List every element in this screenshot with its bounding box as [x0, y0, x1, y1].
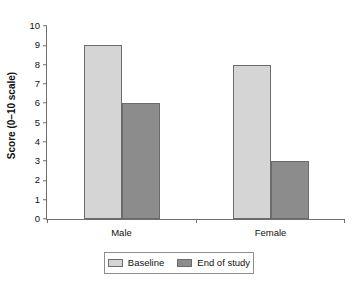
y-axis-tick: 10	[29, 21, 47, 31]
y-axis-tick: 8	[35, 60, 47, 70]
x-axis-category-label: Male	[111, 227, 132, 238]
y-axis-tick: 0	[35, 214, 47, 224]
x-axis-tick-mark	[344, 219, 345, 223]
plot-area: 109876543210 MaleFemale	[47, 26, 345, 219]
legend-swatch-baseline	[108, 259, 123, 267]
x-axis-category-label: Female	[255, 227, 287, 238]
y-axis-tick: 4	[35, 137, 47, 147]
y-axis-tick-label: 6	[35, 98, 43, 108]
y-axis-tick-label: 8	[35, 60, 43, 70]
y-axis-tick-label: 5	[35, 118, 43, 128]
y-axis-tick-mark	[43, 141, 47, 142]
y-axis-tick: 5	[35, 118, 47, 128]
y-axis-tick-label: 1	[35, 195, 43, 205]
y-axis-tick: 9	[35, 41, 47, 51]
y-axis-tick-mark	[43, 199, 47, 200]
y-axis-label: Score (0–10 scale)	[0, 0, 24, 230]
y-axis-tick-mark	[43, 64, 47, 65]
legend-swatch-end-of-study	[177, 259, 192, 267]
y-axis-tick-label: 3	[35, 156, 43, 166]
legend-label-baseline: Baseline	[128, 258, 164, 268]
bar-chart: Score (0–10 scale) 109876543210 MaleFema…	[0, 0, 361, 286]
y-axis-label-text: Score (0–10 scale)	[7, 71, 18, 158]
bar	[122, 103, 160, 219]
x-axis-tick-mark	[196, 219, 197, 223]
legend-label-end-of-study: End of study	[197, 258, 250, 268]
y-axis-tick: 1	[35, 195, 47, 205]
y-axis-tick-label: 4	[35, 137, 43, 147]
y-axis-tick-mark	[43, 45, 47, 46]
legend-item-end-of-study: End of study	[177, 258, 250, 268]
y-axis-tick-mark	[43, 83, 47, 84]
y-axis-tick-label: 9	[35, 41, 43, 51]
bar	[233, 65, 271, 219]
x-axis-tick-mark	[47, 219, 48, 223]
legend-item-baseline: Baseline	[108, 258, 164, 268]
y-axis-tick-mark	[43, 103, 47, 104]
bar	[271, 161, 309, 219]
y-axis-tick-mark	[43, 161, 47, 162]
y-axis-tick: 3	[35, 156, 47, 166]
y-axis-tick: 6	[35, 98, 47, 108]
y-axis-tick: 7	[35, 79, 47, 89]
y-axis-tick-mark	[43, 180, 47, 181]
y-axis-tick: 2	[35, 176, 47, 186]
chart-legend: Baseline End of study	[104, 252, 254, 274]
y-axis-tick-mark	[43, 26, 47, 27]
y-axis-tick-label: 0	[35, 214, 43, 224]
y-axis-tick-label: 7	[35, 79, 43, 89]
y-axis-tick-label: 2	[35, 176, 43, 186]
y-axis-tick-mark	[43, 122, 47, 123]
y-axis-tick-label: 10	[29, 21, 43, 31]
bar	[84, 45, 122, 219]
